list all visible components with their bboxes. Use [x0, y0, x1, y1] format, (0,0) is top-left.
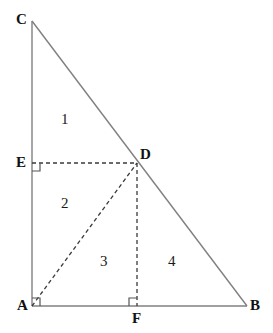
vertex-label-F: F — [132, 311, 141, 326]
right-angle-at-E — [32, 163, 40, 171]
segment-AD — [32, 163, 137, 306]
dashed-edges — [32, 163, 137, 306]
vertex-label-D: D — [140, 147, 151, 162]
region-label-2: 2 — [61, 196, 69, 211]
vertex-label-E: E — [16, 155, 26, 170]
vertex-label-C: C — [16, 12, 27, 27]
solid-edges — [32, 21, 247, 306]
vertex-label-A: A — [17, 298, 28, 313]
right-angle-at-F — [129, 298, 137, 306]
geometry-canvas — [0, 0, 273, 333]
segment-CB — [32, 21, 247, 306]
region-label-4: 4 — [168, 254, 176, 269]
geometry-figure: C E A D F B 1 2 3 4 — [0, 0, 273, 333]
region-label-1: 1 — [61, 112, 69, 127]
region-label-3: 3 — [100, 254, 108, 269]
vertex-label-B: B — [250, 298, 260, 313]
